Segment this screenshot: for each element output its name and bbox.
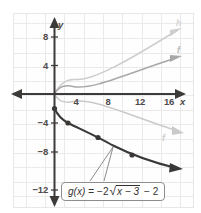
equation-function-name: g(x) (68, 186, 85, 197)
equation-coefficient: −2 (97, 186, 108, 197)
square-root-function-graph-figure: 4 8 12 16 x 8 4 −4 −8 −12 y h f f g(x) =… (0, 0, 201, 213)
curve-label-f-lower: f (162, 133, 165, 143)
y-tick-label-4: 4 (26, 60, 48, 71)
x-tick-label-16: 16 (160, 96, 178, 107)
x-tick-label-12: 12 (131, 96, 149, 107)
x-tick-label-8: 8 (100, 96, 116, 107)
y-axis-arrow-down (50, 196, 60, 207)
y-tick-label-neg4: −4 (22, 117, 48, 128)
x-axis-label: x (180, 96, 185, 107)
curve-label-h: h (176, 18, 182, 28)
equation-constant: − 2 (144, 186, 158, 197)
equation-callout: g(x) = −2 √ x − 3 − 2 (61, 182, 165, 201)
y-tick-label-8: 8 (26, 31, 48, 42)
radicand: x − 3 (116, 185, 140, 197)
curve-label-f-upper: f (177, 45, 180, 55)
y-tick-label-neg8: −8 (22, 146, 48, 157)
radical-sign-icon: √ (109, 185, 116, 197)
x-axis-arrow-left (11, 89, 22, 99)
x-tick-label-4: 4 (68, 96, 84, 107)
y-axis-label: y (58, 19, 63, 30)
y-tick-label-neg12: −12 (18, 184, 48, 195)
radical-group: √ x − 3 (109, 185, 140, 197)
equation-equals: = (88, 186, 94, 197)
